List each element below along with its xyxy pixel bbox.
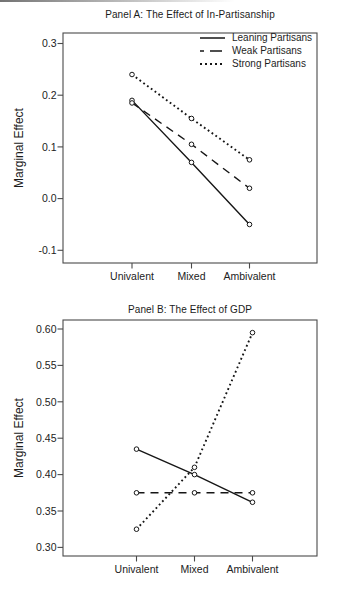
dashed-line-sample-icon — [200, 46, 226, 56]
data-point-marker — [134, 491, 139, 496]
x-tick-label: Ambivalent — [227, 563, 279, 575]
y-tick-label: 0.2 — [42, 89, 57, 101]
data-point-marker — [247, 222, 252, 227]
y-tick-label: 0.30 — [36, 541, 57, 553]
x-tick-label: Univalent — [110, 270, 154, 282]
y-tick-label: 0.35 — [36, 505, 57, 517]
legend-label-leaning-partisans: Leaning Partisans — [232, 33, 312, 43]
data-point-marker — [134, 447, 139, 452]
x-tick-label: Mixed — [177, 270, 205, 282]
data-point-marker — [189, 142, 194, 147]
y-tick-label: 0.40 — [36, 468, 57, 480]
dotted-line-sample-icon — [200, 59, 226, 69]
x-tick-label: Mixed — [180, 563, 208, 575]
legend-row-strong-partisans: Strong Partisans — [200, 57, 312, 70]
data-point-marker — [134, 527, 139, 532]
y-tick-label: -0.1 — [38, 244, 56, 256]
panel-b-plot-area: 0.600.550.500.450.400.350.30UnivalentMix… — [36, 320, 317, 575]
solid-line-sample-icon — [200, 33, 226, 43]
panel-a-legend: Leaning Partisans Weak Partisans Strong … — [200, 31, 312, 70]
legend-label-strong-partisans: Strong Partisans — [232, 59, 306, 69]
legend-label-weak-partisans: Weak Partisans — [232, 46, 302, 56]
data-point-marker — [247, 158, 252, 163]
data-point-marker — [189, 160, 194, 165]
data-point-marker — [250, 500, 255, 505]
y-tick-label: 0.60 — [36, 323, 57, 335]
data-point-marker — [250, 330, 255, 335]
series-line-dotted — [137, 333, 253, 530]
charts-canvas: 0.30.20.10.0-0.1UnivalentMixedAmbivalent… — [0, 0, 338, 591]
legend-row-leaning-partisans: Leaning Partisans — [200, 31, 312, 44]
y-tick-label: 0.45 — [36, 432, 57, 444]
figure-page: Panel A: The Effect of In-Partisanship M… — [0, 0, 338, 591]
data-point-marker — [247, 186, 252, 191]
data-point-marker — [250, 491, 255, 496]
panel-a-plot-area: 0.30.20.10.0-0.1UnivalentMixedAmbivalent — [38, 33, 317, 282]
data-point-marker — [130, 101, 135, 106]
data-point-marker — [192, 465, 197, 470]
data-point-marker — [192, 491, 197, 496]
legend-row-weak-partisans: Weak Partisans — [200, 44, 312, 57]
data-point-marker — [189, 116, 194, 121]
x-tick-label: Univalent — [115, 563, 159, 575]
plot-frame — [63, 320, 317, 556]
y-tick-label: 0.50 — [36, 396, 57, 408]
data-point-marker — [130, 72, 135, 77]
x-tick-label: Ambivalent — [224, 270, 276, 282]
y-tick-label: 0.3 — [42, 37, 57, 49]
data-point-marker — [192, 472, 197, 477]
y-tick-label: 0.0 — [42, 192, 57, 204]
y-tick-label: 0.55 — [36, 359, 57, 371]
y-tick-label: 0.1 — [42, 141, 57, 153]
